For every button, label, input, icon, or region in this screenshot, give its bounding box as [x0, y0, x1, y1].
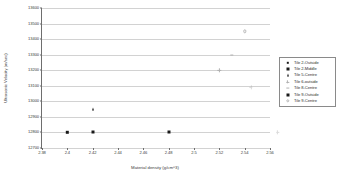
legend-item-label: Tile 9-Outside — [294, 93, 319, 97]
plot-area: 1360013500134001330013200131001300012900… — [41, 8, 270, 149]
y-tick-label: 13400 — [28, 37, 39, 41]
y-tick-label: 13000 — [28, 99, 39, 103]
y-gridline — [42, 39, 270, 40]
plus-marker-icon — [286, 80, 289, 83]
y-gridline — [42, 55, 270, 56]
triangle-marker-icon — [287, 74, 289, 77]
faint-mark-offplot — [276, 131, 279, 134]
y-gridline — [42, 24, 270, 25]
data-point — [243, 30, 246, 33]
y-tick-label: 13500 — [28, 22, 39, 26]
x-tick-label: 2.4 — [65, 151, 70, 155]
y-gridline — [42, 101, 270, 102]
legend-item-label: Tile 5-Centre — [294, 73, 317, 77]
y-axis-title: Ultrasonic Velocity (m/sec) — [4, 53, 8, 102]
chart-legend: Tile 2-OutsideTile 2-MiddleTile 5-Centre… — [279, 57, 336, 107]
square-sm-marker-icon — [286, 61, 288, 63]
data-point — [92, 108, 94, 111]
y-tick-label: 13300 — [28, 53, 39, 57]
circle-open-marker-icon — [286, 99, 289, 102]
x-tick-label: 2.52 — [216, 151, 224, 155]
legend-marker-key — [281, 98, 294, 104]
x-tick-label: 2.48 — [165, 151, 173, 155]
legend-item-label: Tile 2-Middle — [294, 67, 317, 71]
data-point — [167, 131, 170, 134]
data-point — [91, 131, 94, 134]
y-tick-mark — [40, 85, 42, 86]
y-tick-label: 13600 — [28, 6, 39, 10]
x-tick-label: 2.44 — [114, 151, 122, 155]
y-gridline — [42, 86, 270, 87]
y-tick-label: 13100 — [28, 84, 39, 88]
square-marker-icon — [286, 68, 289, 71]
y-tick-label: 12800 — [28, 130, 39, 134]
y-tick-mark — [40, 132, 42, 133]
data-point — [218, 69, 221, 72]
x-tick-label: 2.54 — [241, 151, 249, 155]
y-tick-label: 12900 — [28, 115, 39, 119]
legend-item-tile-9-centre[interactable]: Tile 9-Centre — [281, 98, 334, 104]
y-gridline — [42, 70, 270, 71]
square-marker-icon — [286, 93, 289, 96]
legend-item-label: Tile 9-Centre — [294, 99, 317, 103]
data-point — [66, 131, 68, 133]
faint-mark-right — [249, 86, 252, 89]
y-tick-mark — [40, 23, 42, 24]
y-tick-mark — [40, 39, 42, 40]
y-tick-label: 13200 — [28, 68, 39, 72]
x-tick-label: 2.46 — [140, 151, 148, 155]
y-tick-mark — [40, 70, 42, 71]
y-tick-mark — [40, 8, 42, 9]
dash-marker-icon — [286, 88, 289, 89]
y-gridline — [42, 117, 270, 118]
x-axis-title: Material density (g/cm^3) — [131, 166, 179, 170]
legend-item-label: Tile 6-outside — [294, 80, 318, 84]
y-tick-mark — [40, 116, 42, 117]
legend-item-label: Tile 2-Outside — [294, 61, 319, 65]
y-gridline — [42, 132, 270, 133]
ultrasonic-velocity-scatter-chart: Ultrasonic Velocity (m/sec) Material den… — [0, 0, 338, 183]
x-tick-label: 2.5 — [191, 151, 196, 155]
y-gridline — [42, 148, 270, 149]
y-tick-mark — [40, 101, 42, 102]
y-gridline — [42, 8, 270, 9]
y-tick-mark — [40, 54, 42, 55]
x-tick-label: 2.38 — [38, 151, 46, 155]
legend-item-label: Tile 8-Centre — [294, 86, 317, 90]
x-tick-label: 2.42 — [89, 151, 97, 155]
x-tick-label: 2.56 — [266, 151, 274, 155]
data-point — [230, 54, 233, 55]
